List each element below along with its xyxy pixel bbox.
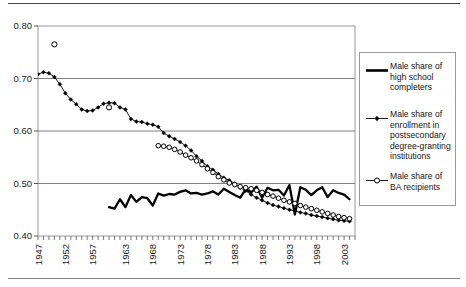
data-point bbox=[200, 162, 205, 167]
data-point bbox=[336, 214, 341, 219]
xtick-label: 1968 bbox=[147, 244, 158, 265]
data-point bbox=[347, 216, 352, 221]
data-point bbox=[194, 159, 199, 164]
data-point bbox=[276, 196, 281, 201]
legend-ba-recipients: Male share of BA recipients bbox=[364, 171, 456, 192]
xtick-label: 1988 bbox=[257, 244, 268, 265]
xtick-label: 1963 bbox=[120, 244, 131, 265]
data-point bbox=[298, 203, 303, 208]
data-point bbox=[238, 184, 243, 189]
legend-label: Male share of high school completers bbox=[390, 61, 442, 93]
data-point bbox=[227, 181, 232, 186]
chart-legend: Male share of high school completersMale… bbox=[359, 52, 456, 206]
data-point bbox=[249, 186, 254, 191]
xtick-label: 1957 bbox=[87, 244, 98, 265]
xtick-label: 2003 bbox=[339, 244, 350, 265]
ytick-label: 0.80 bbox=[14, 20, 33, 31]
xtick-label: 1947 bbox=[33, 244, 44, 265]
ytick-label: 0.50 bbox=[14, 178, 33, 189]
data-point bbox=[271, 194, 276, 199]
data-point bbox=[222, 178, 227, 183]
data-point bbox=[309, 206, 314, 211]
data-point bbox=[325, 211, 330, 216]
data-point bbox=[282, 198, 287, 203]
data-point bbox=[254, 188, 259, 193]
chart-figure: 0.800.700.600.500.4019471952195719631968… bbox=[0, 0, 466, 287]
xtick-label: 1998 bbox=[311, 244, 322, 265]
legend-diamond-marker-icon bbox=[364, 110, 390, 121]
legend-thick-line-icon bbox=[364, 62, 390, 73]
ytick-label: 0.60 bbox=[14, 125, 33, 136]
legend-high-school-completers: Male share of high school completers bbox=[364, 61, 456, 93]
data-point bbox=[205, 167, 210, 172]
isolated-data-point bbox=[52, 42, 57, 47]
data-point bbox=[189, 155, 194, 160]
data-point bbox=[161, 144, 166, 149]
data-point bbox=[243, 185, 248, 190]
data-point bbox=[304, 205, 309, 210]
data-point bbox=[172, 147, 177, 152]
xtick-label: 1952 bbox=[60, 244, 71, 265]
ytick-label: 0.40 bbox=[14, 230, 33, 241]
data-point bbox=[265, 192, 270, 197]
xtick-label: 1973 bbox=[175, 244, 186, 265]
ytick-label: 0.70 bbox=[14, 73, 33, 84]
xtick-label: 1978 bbox=[202, 244, 213, 265]
xtick-label: 1993 bbox=[284, 244, 295, 265]
legend-label: Male share of enrollment in postsecondar… bbox=[390, 109, 451, 162]
data-point bbox=[183, 153, 188, 158]
data-point bbox=[331, 213, 336, 218]
data-point bbox=[178, 150, 183, 155]
data-point bbox=[342, 215, 347, 220]
legend-label: Male share of BA recipients bbox=[390, 171, 442, 192]
data-point bbox=[216, 174, 221, 179]
legend-circle-marker-icon bbox=[364, 172, 390, 183]
xtick-label: 1983 bbox=[229, 244, 240, 265]
data-point bbox=[232, 182, 237, 187]
isolated-data-point bbox=[106, 105, 111, 110]
data-point bbox=[320, 210, 325, 215]
data-point bbox=[211, 170, 216, 175]
data-point bbox=[314, 208, 319, 213]
data-point bbox=[167, 145, 172, 150]
legend-enrollment: Male share of enrollment in postsecondar… bbox=[364, 109, 456, 162]
data-point bbox=[287, 200, 292, 205]
data-point bbox=[293, 201, 298, 206]
data-point bbox=[156, 143, 161, 148]
data-point bbox=[260, 190, 265, 195]
